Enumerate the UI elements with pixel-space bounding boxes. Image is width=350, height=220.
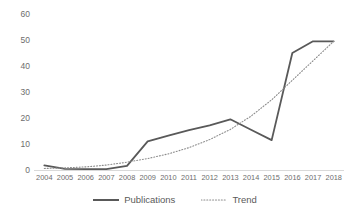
x-axis-tick-labels: 2004200520062007200820092010201120122013… — [34, 173, 344, 187]
legend-swatch-dotted — [201, 196, 227, 204]
x-axis-tick-label: 2009 — [137, 173, 158, 187]
x-axis-tick-label: 2004 — [34, 173, 55, 187]
legend-item-publications[interactable]: Publications — [93, 194, 175, 205]
x-axis-tick-label: 2008 — [117, 173, 138, 187]
x-axis-tick-label: 2017 — [303, 173, 324, 187]
legend-label: Trend — [232, 194, 256, 205]
legend-swatch-solid — [93, 196, 119, 204]
x-axis-tick-label: 2018 — [323, 173, 344, 187]
x-axis-tick-label: 2006 — [75, 173, 96, 187]
chart-plot-svg — [0, 0, 350, 220]
series-lines-layer — [44, 41, 333, 169]
chart-legend: PublicationsTrend — [0, 194, 350, 205]
legend-label: Publications — [124, 194, 175, 205]
x-axis-tick-label: 2011 — [179, 173, 200, 187]
x-axis-tick-label: 2015 — [261, 173, 282, 187]
x-axis-tick-label: 2014 — [241, 173, 262, 187]
x-axis-tick-label: 2007 — [96, 173, 117, 187]
legend-item-trend[interactable]: Trend — [201, 194, 256, 205]
x-axis-tick-label: 2012 — [199, 173, 220, 187]
x-axis-tick-label: 2016 — [282, 173, 303, 187]
x-axis-tick-label: 2013 — [220, 173, 241, 187]
chart-container: 0102030405060 20042005200620072008200920… — [0, 0, 350, 220]
series-line-publications — [44, 41, 333, 169]
x-axis-tick-label: 2005 — [55, 173, 76, 187]
x-axis-tick-label: 2010 — [158, 173, 179, 187]
